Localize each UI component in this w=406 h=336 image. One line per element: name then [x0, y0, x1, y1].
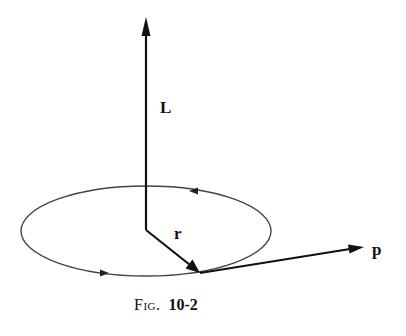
p-vector-shaft — [200, 249, 350, 273]
L-vector-arrowhead — [142, 17, 151, 36]
figure-caption-prefix: Fig. — [134, 296, 161, 313]
p-vector-arrowhead — [348, 245, 364, 254]
r-vector-label: r — [174, 224, 182, 244]
figure-caption: Fig.10-2 — [134, 296, 198, 314]
orbit-direction-arrow-bottom — [100, 270, 109, 277]
r-vector-arrowhead — [186, 260, 201, 274]
r-vector-shaft — [146, 230, 190, 265]
figure-caption-number: 10-2 — [169, 296, 198, 313]
p-vector-label: p — [372, 240, 381, 260]
angular-momentum-diagram — [0, 0, 406, 336]
L-vector-label: L — [160, 98, 171, 118]
